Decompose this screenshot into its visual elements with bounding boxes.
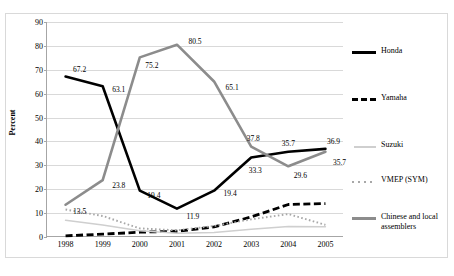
legend-swatch-icon (352, 141, 376, 153)
data-point-label: 19.4 (147, 190, 160, 199)
y-tick-label: 50 (35, 113, 43, 122)
data-point-label: 65.1 (226, 83, 239, 92)
data-point-label: 29.6 (294, 171, 307, 180)
data-point-label: 36.9 (327, 136, 340, 145)
y-tick-label: 40 (35, 137, 43, 146)
data-point-label: 33.3 (249, 166, 262, 175)
x-tick-label: 2003 (243, 240, 259, 249)
legend-item-honda[interactable]: Honda (352, 46, 448, 59)
legend-swatch-icon (352, 213, 376, 225)
x-tick-label: 2001 (169, 240, 185, 249)
x-tick-label: 1999 (95, 240, 111, 249)
legend-item-chinese-and-local-assemblers[interactable]: Chinese and local assemblers (352, 212, 448, 231)
x-tick-label: 2000 (132, 240, 148, 249)
legend-item-vmep-sym[interactable]: VMEP (SYM) (352, 175, 448, 188)
data-point-label: 37.8 (247, 133, 260, 142)
y-tick-label: 60 (35, 89, 43, 98)
y-tick-label: 0 (39, 233, 43, 242)
plot-area: 0102030405060708090 19981999200020012002… (46, 22, 343, 237)
legend-item-yamaha[interactable]: Yamaha (352, 93, 448, 106)
chart-legend: HondaYamahaSuzukiVMEP (SYM)Chinese and l… (352, 40, 448, 230)
data-point-label: 19.4 (224, 188, 237, 197)
y-tick-label: 80 (35, 41, 43, 50)
legend-swatch-icon (352, 94, 376, 106)
y-tick-label: 10 (35, 209, 43, 218)
legend-label: Suzuki (381, 140, 403, 150)
x-tick-label: 2005 (317, 240, 333, 249)
y-tick-mark (44, 237, 47, 238)
data-point-label: 11.9 (187, 211, 200, 220)
legend-label: Chinese and local assemblers (381, 212, 443, 231)
legend-label: Honda (381, 46, 402, 56)
data-point-label: 35.7 (333, 157, 346, 166)
series-line (66, 45, 326, 205)
series-line (66, 220, 326, 233)
y-axis-title: Percent (8, 93, 17, 153)
legend-label: Yamaha (381, 93, 407, 103)
data-point-label: 13.5 (73, 206, 86, 215)
y-tick-label: 70 (35, 65, 43, 74)
data-point-label: 67.2 (73, 65, 86, 74)
data-point-label: 63.1 (112, 85, 125, 94)
legend-label: VMEP (SYM) (381, 175, 428, 185)
data-point-label: 23.8 (112, 181, 125, 190)
y-tick-label: 20 (35, 185, 43, 194)
x-tick-label: 1998 (58, 240, 74, 249)
series-lines (47, 22, 344, 237)
data-point-label: 75.2 (145, 61, 158, 70)
legend-swatch-icon (352, 176, 376, 188)
x-tick-label: 2002 (206, 240, 222, 249)
x-tick-label: 2004 (280, 240, 296, 249)
legend-swatch-icon (352, 47, 376, 59)
chart-figure: Percent 0102030405060708090 199819992000… (0, 0, 454, 276)
y-tick-label: 30 (35, 161, 43, 170)
y-tick-label: 90 (35, 18, 43, 27)
data-point-label: 80.5 (188, 36, 201, 45)
legend-item-suzuki[interactable]: Suzuki (352, 140, 448, 153)
data-point-label: 35.7 (282, 138, 295, 147)
